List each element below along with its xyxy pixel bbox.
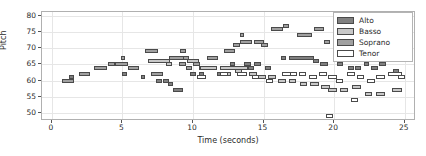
note-rect — [398, 75, 405, 79]
note-rect — [340, 88, 348, 92]
note-rect — [278, 79, 286, 83]
note-rect — [376, 92, 384, 96]
note-rect — [156, 79, 162, 83]
note-rect — [357, 75, 364, 79]
note-rect — [79, 72, 90, 76]
legend-item-soprano[interactable]: Soprano — [337, 37, 409, 48]
note-rect — [309, 75, 317, 79]
note-rect — [364, 62, 370, 66]
y-tick-label: 65 — [26, 59, 36, 68]
y-axis-label: Pitch — [0, 31, 8, 50]
legend-item-tenor[interactable]: Tenor — [337, 48, 409, 59]
note-rect — [352, 85, 360, 89]
gridline-y — [42, 113, 414, 114]
note-rect — [108, 62, 115, 66]
note-rect — [328, 88, 336, 92]
x-tick-mark — [333, 120, 334, 123]
note-rect — [115, 62, 128, 66]
note-rect — [271, 27, 284, 31]
x-tick-mark — [263, 120, 264, 123]
note-rect — [200, 66, 217, 70]
note-rect — [367, 79, 375, 83]
note-rect — [289, 56, 314, 60]
y-tick-label: 80 — [26, 10, 36, 19]
note-rect — [197, 75, 205, 79]
note-rect — [179, 62, 186, 66]
note-rect — [237, 72, 247, 76]
note-rect — [233, 43, 240, 47]
legend-label: Alto — [359, 15, 374, 26]
note-rect — [207, 56, 218, 60]
note-rect — [128, 66, 139, 70]
note-rect — [283, 24, 289, 28]
note-rect — [180, 49, 186, 53]
y-tick-label: 55 — [26, 91, 36, 100]
note-rect — [379, 62, 386, 66]
x-tick-mark — [192, 120, 193, 123]
legend-label: Basso — [359, 26, 381, 37]
y-tick-label: 60 — [26, 75, 36, 84]
note-rect — [320, 62, 328, 66]
note-rect — [371, 66, 378, 70]
legend: AltoBassoSopranoTenor — [333, 12, 413, 62]
note-rect — [319, 72, 327, 76]
note-rect — [314, 27, 324, 31]
note-rect — [281, 56, 287, 60]
note-rect — [297, 33, 311, 37]
note-rect — [355, 66, 361, 70]
note-rect — [121, 56, 125, 60]
y-tick-label: 50 — [26, 107, 36, 116]
note-rect — [69, 75, 75, 79]
note-rect — [313, 59, 319, 63]
note-rect — [151, 72, 164, 76]
note-rect — [166, 62, 172, 66]
legend-label: Soprano — [359, 37, 390, 48]
x-tick-mark — [404, 120, 405, 123]
gridline-y — [42, 81, 414, 82]
note-rect — [351, 98, 358, 102]
note-rect — [94, 66, 107, 70]
note-rect — [254, 62, 261, 66]
note-rect — [122, 72, 126, 76]
note-rect — [240, 40, 253, 44]
note-rect — [299, 72, 306, 76]
gridline-y — [42, 97, 414, 98]
note-rect — [290, 72, 297, 76]
x-tick-label: 25 — [399, 123, 409, 132]
note-rect — [376, 75, 384, 79]
legend-label: Tenor — [359, 48, 379, 59]
legend-swatch-icon — [337, 39, 354, 46]
x-tick-label: 5 — [119, 123, 124, 132]
legend-swatch-icon — [337, 50, 354, 57]
note-rect — [310, 82, 318, 86]
note-rect — [365, 92, 372, 96]
y-tick-label: 70 — [26, 43, 36, 52]
note-rect — [289, 79, 296, 83]
x-tick-mark — [51, 120, 52, 123]
y-tick-label: 75 — [26, 27, 36, 36]
note-rect — [261, 43, 268, 47]
note-rect — [186, 66, 192, 70]
gridline-x — [52, 12, 53, 119]
note-rect — [187, 59, 198, 63]
note-rect — [240, 33, 244, 37]
legend-item-alto[interactable]: Alto — [337, 15, 409, 26]
note-rect — [337, 62, 343, 66]
note-rect — [300, 82, 307, 86]
note-rect — [141, 75, 145, 79]
note-rect — [220, 66, 248, 70]
x-tick-mark — [121, 120, 122, 123]
legend-item-basso[interactable]: Basso — [337, 26, 409, 37]
note-rect — [224, 49, 235, 53]
note-rect — [145, 49, 158, 53]
note-rect — [220, 72, 228, 76]
x-tick-label: 15 — [258, 123, 268, 132]
note-rect — [392, 88, 402, 92]
note-rect — [173, 88, 183, 92]
note-rect — [326, 114, 333, 118]
note-rect — [336, 79, 343, 83]
note-rect — [168, 82, 174, 86]
note-rect — [190, 72, 196, 76]
pitch-over-time-chart: Pitch Time (seconds) 50556065707580 0510… — [0, 0, 426, 156]
legend-swatch-icon — [337, 28, 354, 35]
